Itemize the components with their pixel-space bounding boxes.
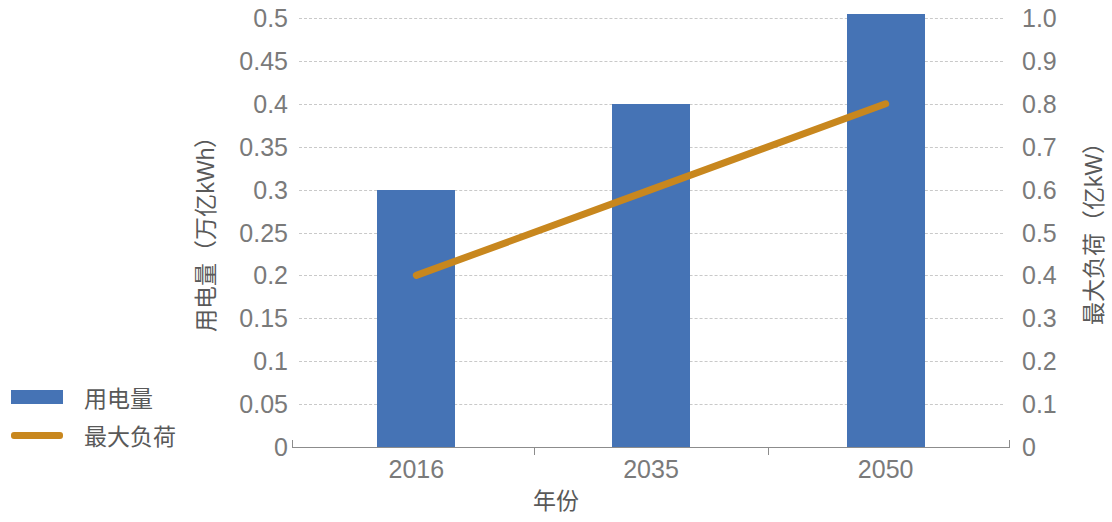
legend-item-peakload: 最大负荷 (8, 416, 198, 454)
y-axis-left-tick-label: 0.2 (253, 261, 288, 290)
y-axis-right-tick-label: 0.2 (1022, 347, 1057, 376)
x-axis-title: 年份 (0, 482, 1112, 516)
bar (612, 104, 690, 447)
y-axis-right-tick-label: 1.0 (1022, 4, 1057, 33)
y-axis-left-title-text: 用电量（万亿kWh） (186, 124, 220, 331)
chart-figure: 用电量 最大负荷 用电量（万亿kWh） 最大负荷（亿kW） 年份 00.050.… (0, 0, 1112, 522)
chart-legend: 用电量 最大负荷 (8, 378, 198, 454)
y-axis-left-tick-label: 0.45 (239, 46, 288, 75)
y-axis-left-tick-label: 0.15 (239, 304, 288, 333)
y-axis-left-tick-label: 0.1 (253, 347, 288, 376)
bar (847, 14, 925, 447)
legend-item-consumption: 用电量 (8, 378, 198, 416)
y-axis-right-ticks: 00.10.20.30.40.50.60.70.80.91.0 (1022, 0, 1082, 455)
y-axis-right-tick-label: 0 (1022, 433, 1036, 462)
y-axis-right-tick-label: 0.6 (1022, 175, 1057, 204)
y-axis-right-tick-label: 0.9 (1022, 46, 1057, 75)
x-axis-start-tick (292, 440, 293, 448)
y-axis-right-tick-label: 0.7 (1022, 132, 1057, 161)
y-axis-right-tick-label: 0.1 (1022, 390, 1057, 419)
y-axis-right-tick-label: 0.5 (1022, 218, 1057, 247)
y-axis-left-ticks: 00.050.10.150.20.250.30.350.40.450.5 (222, 0, 288, 455)
plot-area (299, 18, 1003, 447)
legend-bar-swatch (8, 390, 66, 404)
bar (377, 190, 455, 447)
x-axis-tick-label: 2016 (389, 455, 445, 484)
y-axis-left-tick-label: 0.5 (253, 4, 288, 33)
y-axis-right-tick-label: 0.3 (1022, 304, 1057, 333)
y-axis-left-tick-label: 0.05 (239, 390, 288, 419)
x-axis-tick-mark (768, 447, 769, 455)
legend-label-peakload: 最大负荷 (84, 418, 176, 452)
x-axis-line (292, 447, 1010, 448)
x-axis-end-tick (1009, 440, 1010, 448)
x-axis-tick-label: 2035 (623, 455, 679, 484)
line-color-swatch-icon (11, 432, 63, 439)
bar-color-swatch-icon (11, 390, 63, 404)
y-axis-left-tick-label: 0.4 (253, 89, 288, 118)
legend-line-swatch (8, 432, 66, 439)
x-axis-tick-mark (534, 447, 535, 455)
y-axis-right-tick-label: 0.8 (1022, 89, 1057, 118)
x-axis-tick-label: 2050 (858, 455, 914, 484)
y-axis-right-tick-label: 0.4 (1022, 261, 1057, 290)
y-axis-left-title: 用电量（万亿kWh） (183, 0, 223, 455)
legend-label-consumption: 用电量 (84, 380, 153, 414)
y-axis-left-tick-label: 0 (274, 433, 288, 462)
y-axis-left-tick-label: 0.3 (253, 175, 288, 204)
y-axis-left-tick-label: 0.25 (239, 218, 288, 247)
y-axis-left-tick-label: 0.35 (239, 132, 288, 161)
